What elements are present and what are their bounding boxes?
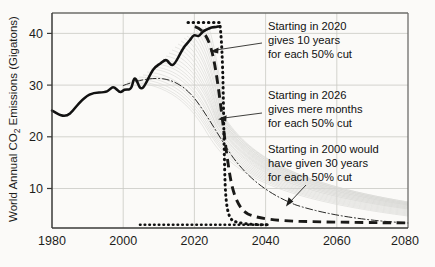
annotation-2020-line-2: gives 10 years	[268, 34, 341, 46]
chart-canvas: 40 30 20 10 1980 2000 2020 2040 2060 208…	[0, 0, 435, 267]
y-axis-title-pre: World Annual CO	[7, 133, 19, 222]
xtick-label-2020: 2020	[180, 234, 208, 248]
annotation-2026-line-3: for each 50% cut	[268, 117, 353, 129]
xtick-label-2000: 2000	[109, 234, 137, 248]
annotation-2026-line-2: gives mere months	[268, 103, 363, 115]
ytick-label-20: 20	[29, 130, 43, 144]
co2-emissions-chart-figure: 40 30 20 10 1980 2000 2020 2040 2060 208…	[0, 0, 435, 267]
annotation-2020-line-3: for each 50% cut	[268, 48, 353, 60]
y-axis-title-post: Emissions (Gigatons)	[7, 16, 19, 129]
xtick-label-2060: 2060	[323, 234, 351, 248]
annotation-2020-line-1: Starting in 2020	[268, 20, 346, 32]
annotation-2000-line-3: for each 50% cut	[268, 171, 353, 183]
annotation-2000-line-1: Starting in 2000 would	[268, 143, 379, 155]
annotation-2020: Starting in 2020 gives 10 years for each…	[268, 20, 353, 60]
xtick-label-1980: 1980	[38, 234, 66, 248]
ytick-label-30: 30	[29, 79, 43, 93]
xtick-label-2040: 2040	[252, 234, 280, 248]
ytick-label-10: 10	[29, 182, 43, 196]
annotation-2000-line-2: have given 30 years	[268, 157, 369, 169]
ytick-label-40: 40	[29, 27, 43, 41]
annotation-2026-line-1: Starting in 2026	[268, 89, 346, 101]
xtick-label-2080: 2080	[391, 234, 419, 248]
